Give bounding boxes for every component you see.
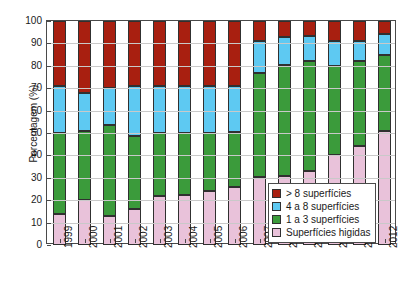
- bar-segment[interactable]: [153, 86, 166, 133]
- y-tick-label: 80: [0, 59, 42, 70]
- bar-segment[interactable]: [378, 34, 391, 54]
- bar-segment[interactable]: [303, 21, 316, 36]
- x-tick-label: 2012: [388, 226, 399, 248]
- bar-segment[interactable]: [203, 86, 216, 133]
- legend-item[interactable]: > 8 superfícies: [272, 187, 371, 200]
- bar-segment[interactable]: [153, 21, 166, 86]
- gridline: [47, 178, 395, 179]
- legend-item[interactable]: 4 a 8 superfícies: [272, 200, 371, 213]
- bar-segment[interactable]: [328, 41, 341, 66]
- legend-color-swatch: [272, 189, 281, 198]
- x-tick-mark: [160, 239, 161, 243]
- y-tick-label: 100: [0, 15, 42, 26]
- y-tick-label: 90: [0, 37, 42, 48]
- bar-column[interactable]: [203, 21, 216, 243]
- chart-figure: Porcentagem (%) 0102030405060708090100 1…: [0, 0, 409, 289]
- x-tick-label: 1999: [63, 226, 74, 248]
- bar-segment[interactable]: [153, 133, 166, 196]
- y-tick-label: 60: [0, 104, 42, 115]
- legend-color-swatch: [272, 202, 281, 211]
- y-tick-mark: [47, 43, 51, 44]
- bar-segment[interactable]: [353, 21, 366, 41]
- bar-segment[interactable]: [78, 131, 91, 200]
- bar-segment[interactable]: [178, 133, 191, 195]
- bar-column[interactable]: [178, 21, 191, 243]
- bar-segment[interactable]: [253, 41, 266, 72]
- y-tick-mark: [47, 178, 51, 179]
- legend-item[interactable]: Superfícies higidas: [272, 226, 371, 239]
- bar-segment[interactable]: [203, 21, 216, 86]
- legend-color-swatch: [272, 228, 281, 237]
- y-tick-label: 70: [0, 82, 42, 93]
- bar-segment[interactable]: [378, 21, 391, 34]
- bar-segment[interactable]: [53, 133, 66, 214]
- legend-color-swatch: [272, 215, 281, 224]
- bar-column[interactable]: [103, 21, 116, 243]
- bar-segment[interactable]: [128, 21, 141, 86]
- bar-segment[interactable]: [253, 21, 266, 41]
- legend-item-label: > 8 superfícies: [286, 188, 351, 199]
- gridline: [47, 66, 395, 67]
- bar-segment[interactable]: [328, 21, 341, 41]
- x-tick-mark: [110, 239, 111, 243]
- y-tick-mark: [47, 66, 51, 67]
- y-tick-mark: [47, 21, 51, 22]
- bar-segment[interactable]: [228, 21, 241, 86]
- bar-segment[interactable]: [53, 21, 66, 86]
- legend-item-label: 1 a 3 superfícies: [286, 214, 359, 225]
- bar-column[interactable]: [78, 21, 91, 243]
- x-tick-mark: [185, 239, 186, 243]
- y-tick-label: 0: [0, 239, 42, 250]
- bar-segment[interactable]: [53, 86, 66, 133]
- gridline: [47, 111, 395, 112]
- x-tick-mark: [210, 239, 211, 243]
- y-tick-mark: [47, 245, 51, 246]
- gridline: [47, 155, 395, 156]
- bar-segment[interactable]: [103, 21, 116, 88]
- bar-segment[interactable]: [278, 21, 291, 37]
- x-tick-label: 2005: [213, 226, 224, 248]
- y-tick-label: 30: [0, 171, 42, 182]
- bar-column[interactable]: [378, 21, 391, 243]
- bar-column[interactable]: [53, 21, 66, 243]
- bar-column[interactable]: [253, 21, 266, 243]
- legend-item-label: Superfícies higidas: [286, 227, 371, 238]
- y-tick-mark: [47, 223, 51, 224]
- x-tick-label: 2000: [88, 226, 99, 248]
- bar-segment[interactable]: [103, 125, 116, 216]
- y-tick-mark: [47, 200, 51, 201]
- bar-segment[interactable]: [228, 86, 241, 132]
- x-tick-label: 2004: [188, 226, 199, 248]
- bar-segment[interactable]: [78, 93, 91, 131]
- bar-column[interactable]: [153, 21, 166, 243]
- y-tick-label: 20: [0, 194, 42, 205]
- x-tick-label: 2003: [163, 226, 174, 248]
- x-tick-mark: [60, 239, 61, 243]
- bar-column[interactable]: [228, 21, 241, 243]
- bar-segment[interactable]: [178, 86, 191, 133]
- x-tick-mark: [85, 239, 86, 243]
- x-tick-mark: [260, 239, 261, 243]
- x-tick-label: 2006: [238, 226, 249, 248]
- bar-segment[interactable]: [203, 133, 216, 191]
- y-tick-label: 10: [0, 216, 42, 227]
- bar-segment[interactable]: [278, 37, 291, 65]
- bar-segment[interactable]: [128, 136, 141, 209]
- bar-segment[interactable]: [178, 21, 191, 86]
- bar-segment[interactable]: [303, 36, 316, 62]
- bar-segment[interactable]: [278, 65, 291, 176]
- y-tick-label: 40: [0, 149, 42, 160]
- x-tick-label: 2002: [138, 226, 149, 248]
- gridline: [47, 133, 395, 134]
- x-tick-label: 2001: [113, 226, 124, 248]
- y-tick-label: 50: [0, 127, 42, 138]
- gridline: [47, 88, 395, 89]
- y-tick-mark: [47, 111, 51, 112]
- bar-segment[interactable]: [78, 21, 91, 93]
- legend-item[interactable]: 1 a 3 superfícies: [272, 213, 371, 226]
- gridline: [47, 43, 395, 44]
- y-tick-mark: [47, 133, 51, 134]
- x-tick-mark: [385, 239, 386, 243]
- bar-column[interactable]: [128, 21, 141, 243]
- bar-segment[interactable]: [103, 88, 116, 125]
